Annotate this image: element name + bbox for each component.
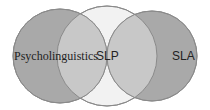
label-slp: SLP	[96, 49, 119, 63]
label-psycholinguistics: Psycholinguistics	[14, 49, 98, 63]
venn-diagram: Psycholinguistics SLP SLA	[0, 0, 210, 110]
label-sla: SLA	[172, 49, 195, 63]
